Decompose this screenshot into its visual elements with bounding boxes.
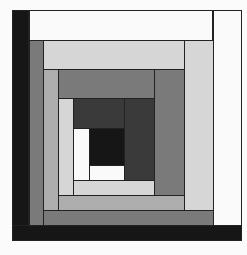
ring2-top-strip	[58, 69, 155, 99]
ring0-left-strip	[73, 128, 90, 181]
ring0-bottom-strip	[89, 165, 125, 181]
outer-bottom-strip	[12, 225, 242, 241]
ring3-right-strip	[184, 40, 214, 211]
center-square	[89, 128, 125, 166]
outer-top-strip	[29, 10, 213, 41]
ring2-bottom-strip	[58, 195, 185, 211]
outer-right-strip	[213, 10, 242, 226]
ring3-bottom-strip	[43, 210, 214, 226]
ring2-right-strip	[154, 69, 185, 196]
ring2-left-strip	[43, 69, 59, 211]
ring3-top-strip	[43, 40, 185, 70]
ring1-right-strip	[124, 98, 155, 181]
ring1-top-strip	[73, 98, 125, 129]
ring3-left-strip	[29, 40, 44, 226]
log-cabin-quilt-block	[0, 0, 247, 255]
outer-left-strip	[12, 10, 29, 241]
ring1-bottom-strip	[73, 180, 155, 196]
ring1-left-strip	[58, 98, 74, 196]
